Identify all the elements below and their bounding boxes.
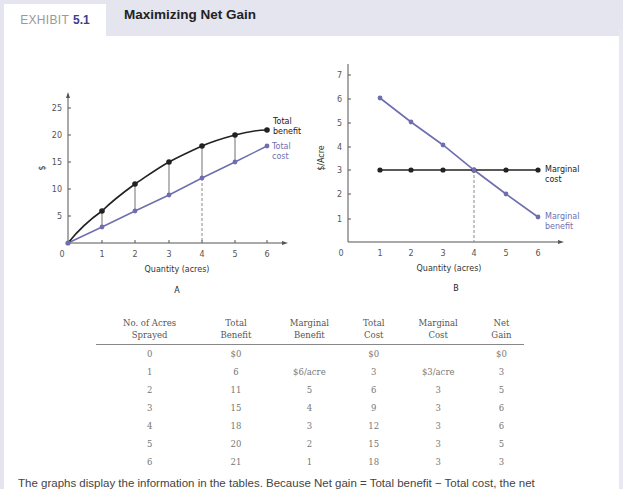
chart-b-ytick: 3 <box>337 166 342 175</box>
chart-a-y-arrow-icon <box>66 92 70 98</box>
table-row: 52021535 <box>96 435 524 453</box>
chart-b-x-arrow-icon <box>558 240 564 244</box>
table-header-row: No. of AcresSprayed TotalBenefit Margina… <box>96 316 524 345</box>
chart-b-xtick: 5 <box>503 249 508 258</box>
chart-a-xtick: 5 <box>232 250 237 259</box>
chart-a-origin: 0 <box>59 250 64 259</box>
chart-b-panel-label: B <box>453 284 459 293</box>
chart-b-y-title: $/Acre <box>317 145 326 171</box>
chart-a-ytick: 20 <box>52 131 62 140</box>
col-header-net-gain: NetGain <box>479 316 524 345</box>
chart-a-ytick: 10 <box>52 185 62 194</box>
chart-b-x-title: Quantity (acres) <box>417 264 482 273</box>
chart-b: 1 2 3 4 5 6 7 0 1 2 3 4 5 6 $/Acre Quant… <box>317 64 579 293</box>
chart-a-xtick: 1 <box>99 250 104 259</box>
chart-a-total-benefit-points <box>99 127 270 214</box>
chart-b-ytick: 6 <box>337 95 342 104</box>
caption-text: The graphs display the information in th… <box>18 477 535 489</box>
chart-a-label-total-benefit: benefit <box>273 127 301 136</box>
table-row: 0$0$0$0 <box>96 345 524 363</box>
chart-a-y-title: $ <box>38 165 47 170</box>
table-row: 2115635 <box>96 381 524 399</box>
chart-a-x-title: Quantity (acres) <box>145 265 210 274</box>
chart-a: 5 10 15 20 25 0 1 2 3 4 5 6 $ Quantity (… <box>38 92 301 295</box>
chart-b-label-marginal-benefit: Marginal <box>545 212 579 221</box>
chart-a-label-total-cost: cost <box>272 152 289 161</box>
chart-b-y-ticks: 1 2 3 4 5 6 7 <box>337 71 351 224</box>
chart-b-label-marginal-cost: Marginal <box>545 165 579 174</box>
chart-a-xtick: 3 <box>166 250 171 259</box>
chart-b-xtick: 1 <box>377 249 382 258</box>
table-row: 3154936 <box>96 399 524 417</box>
chart-a-origin-point <box>65 240 70 245</box>
chart-b-marginal-benefit-line <box>380 98 538 217</box>
chart-a-ytick: 5 <box>57 212 62 221</box>
chart-a-total-benefit-curve <box>68 130 267 243</box>
chart-b-x-ticks: 0 1 2 3 4 5 6 <box>338 249 540 258</box>
chart-b-ytick: 5 <box>337 119 342 128</box>
chart-a-x-arrow-icon <box>282 241 288 245</box>
chart-b-ytick: 7 <box>337 71 342 80</box>
chart-a-xtick: 6 <box>264 250 269 259</box>
chart-b-ytick: 2 <box>337 190 342 199</box>
chart-b-xtick: 6 <box>535 249 540 258</box>
chart-b-xtick: 2 <box>408 249 413 258</box>
col-header-total-cost: TotalCost <box>350 316 398 345</box>
chart-a-xtick: 4 <box>199 250 204 259</box>
col-header-total-benefit: TotalBenefit <box>203 316 268 345</box>
col-header-marginal-cost: MarginalCost <box>398 316 479 345</box>
chart-b-ytick: 4 <box>337 143 342 152</box>
chart-b-label-marginal-benefit: benefit <box>545 222 573 231</box>
table-row: 16$6/acre3$3/acre3 <box>96 363 524 381</box>
data-table: No. of AcresSprayed TotalBenefit Margina… <box>96 316 524 471</box>
chart-b-xtick: 3 <box>440 249 445 258</box>
chart-a-label-total-cost: Total <box>271 142 291 151</box>
chart-a-xtick: 2 <box>132 250 137 259</box>
table-row: 62111833 <box>96 453 524 471</box>
table-row: 41831236 <box>96 417 524 435</box>
chart-a-panel-label: A <box>174 286 180 295</box>
chart-b-ytick: 1 <box>337 215 342 224</box>
col-header-marginal-benefit: MarginalBenefit <box>269 316 350 345</box>
chart-a-ytick: 15 <box>52 158 62 167</box>
chart-a-label-total-benefit: Total <box>272 117 292 126</box>
chart-b-xtick: 4 <box>471 249 476 258</box>
chart-b-origin: 0 <box>338 249 343 258</box>
col-header-acres: No. of AcresSprayed <box>96 316 203 345</box>
chart-b-label-marginal-cost: cost <box>545 175 562 184</box>
chart-a-ytick: 25 <box>52 104 62 113</box>
chart-a-net-gain-lines <box>102 135 235 227</box>
